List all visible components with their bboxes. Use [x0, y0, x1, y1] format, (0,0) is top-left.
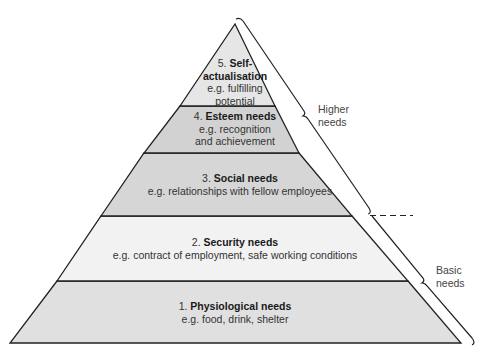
tier-3-number: 3. [202, 172, 211, 184]
tier-4-number: 4. [194, 110, 203, 122]
tier-5-example-line2: potential [185, 95, 285, 108]
basic-needs-line2: needs [436, 277, 465, 290]
tier-5-example-line1: e.g. fulfilling [185, 82, 285, 95]
tier-1-example: e.g. food, drink, shelter [135, 313, 335, 326]
tier-3-label: 3. Social needs e.g. relationships with … [120, 172, 360, 197]
tier-4-example-line1: e.g. recognition [170, 123, 300, 136]
tier-5-name-line1: Self- [229, 57, 252, 69]
tier-2-label: 2. Security needs e.g. contract of emplo… [70, 236, 400, 261]
basic-needs-label: Basic needs [436, 264, 465, 289]
tier-2-number: 2. [192, 236, 201, 248]
tier-5-number: 5. [218, 57, 227, 69]
basic-needs-line1: Basic [436, 264, 465, 277]
tier-1-name: Physiological needs [190, 300, 291, 312]
higher-needs-label: Higher needs [318, 103, 349, 128]
higher-needs-line2: needs [318, 116, 349, 129]
tier-4-name: Esteem needs [206, 110, 277, 122]
tier-1-label: 1. Physiological needs e.g. food, drink,… [135, 300, 335, 325]
higher-needs-line1: Higher [318, 103, 349, 116]
tier-2-name: Security needs [203, 236, 278, 248]
tier-4-example-line2: and achievement [170, 135, 300, 148]
tier-1-number: 1. [179, 300, 188, 312]
tier-2-example: e.g. contract of employment, safe workin… [70, 249, 400, 262]
tier-5-name-line2: actualisation [203, 70, 267, 82]
tier-5-label: 5. Self- actualisation e.g. fulfilling p… [185, 57, 285, 107]
tier-3-name: Social needs [214, 172, 278, 184]
tier-3-example: e.g. relationships with fellow employees [120, 185, 360, 198]
tier-4-label: 4. Esteem needs e.g. recognition and ach… [170, 110, 300, 148]
